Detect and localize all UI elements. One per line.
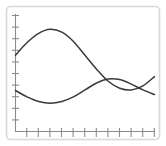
- line-chart-canvas: [0, 0, 166, 146]
- chart-figure: [0, 0, 166, 146]
- plot-inner-area: [14, 14, 154, 132]
